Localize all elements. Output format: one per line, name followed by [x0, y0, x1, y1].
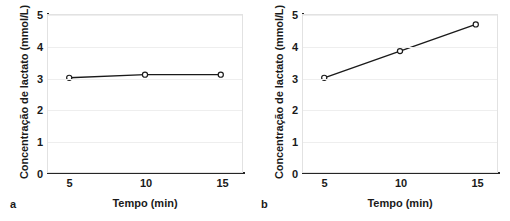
x-tick-label: 15 — [216, 177, 228, 189]
y-tick-label: 0 — [292, 168, 298, 180]
gridline-y — [48, 79, 242, 80]
gridline-y — [48, 110, 242, 111]
y-tick-label: 3 — [292, 73, 298, 85]
y-tick-label: 4 — [37, 41, 43, 53]
x-tick-label: 10 — [140, 177, 152, 189]
lactate-concentration-figure: Concentração de lactato (mmol/L) 0123455… — [0, 0, 510, 221]
x-tick-label: 5 — [321, 177, 327, 189]
x-tick-label: 5 — [66, 177, 72, 189]
y-tick-label: 1 — [37, 136, 43, 148]
data-series-b — [303, 15, 497, 172]
gridline-y — [48, 142, 242, 143]
gridline-y — [303, 79, 497, 80]
x-axis-label-b: Tempo (min) — [302, 197, 498, 209]
x-tick-label: 15 — [471, 177, 483, 189]
gridline-y — [48, 15, 242, 16]
plot-area-a: 01234551015 — [47, 14, 243, 173]
y-tick-label: 5 — [292, 9, 298, 21]
data-point-marker — [142, 72, 147, 77]
gridline-y — [303, 110, 497, 111]
y-axis-label-b: Concentração de lactato (mmol/L) — [271, 0, 287, 192]
y-tick-label: 1 — [292, 136, 298, 148]
plot-area-b: 01234551015 — [302, 14, 498, 173]
panel-letter-b: b — [261, 198, 268, 210]
data-point-marker — [397, 49, 402, 54]
chart-panel-b: Concentração de lactato (mmol/L) 0123455… — [255, 0, 510, 221]
chart-panel-a: Concentração de lactato (mmol/L) 0123455… — [0, 0, 255, 221]
y-tick-label: 5 — [37, 9, 43, 21]
data-point-marker — [218, 72, 223, 77]
y-tick-label: 2 — [292, 104, 298, 116]
y-tick-label: 0 — [37, 168, 43, 180]
gridline-y — [303, 47, 497, 48]
x-tick-label: 10 — [395, 177, 407, 189]
gridline-y — [303, 142, 497, 143]
x-axis-label-a: Tempo (min) — [47, 197, 243, 209]
data-point-marker — [473, 22, 478, 27]
panel-letter-a: a — [10, 198, 16, 210]
y-axis-label-a: Concentração de lactato (mmol/L) — [16, 0, 32, 192]
gridline-y — [303, 15, 497, 16]
y-tick-label: 3 — [37, 73, 43, 85]
data-series-a — [48, 15, 242, 172]
y-tick-label: 4 — [292, 41, 298, 53]
y-tick-label: 2 — [37, 104, 43, 116]
gridline-y — [48, 47, 242, 48]
